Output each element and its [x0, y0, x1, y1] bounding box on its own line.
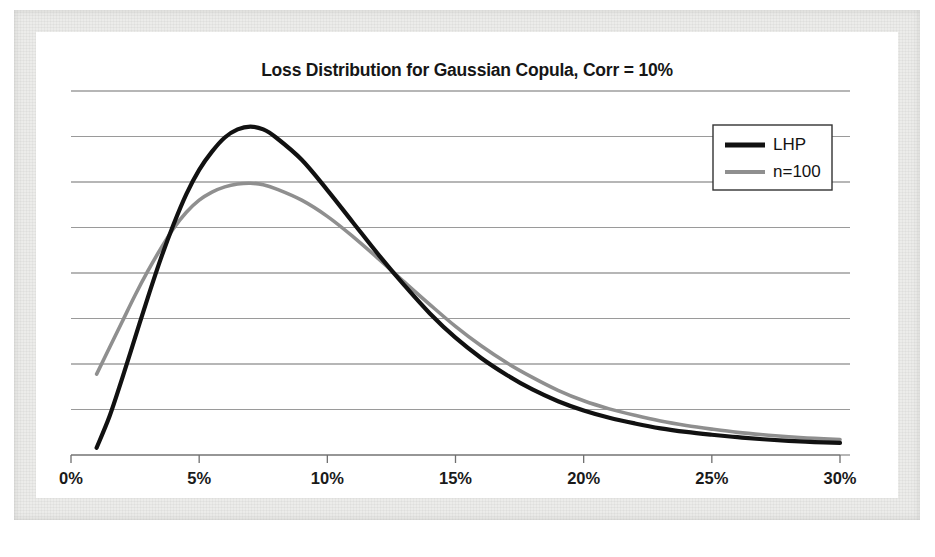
x-tick-label: 10% [311, 469, 344, 488]
x-tick-label: 0% [59, 469, 83, 488]
chart-card: Loss Distribution for Gaussian Copula, C… [36, 32, 898, 498]
x-tick-label: 15% [439, 469, 472, 488]
x-tick-label: 25% [695, 469, 728, 488]
x-tick-label: 5% [187, 469, 211, 488]
x-axis [71, 455, 840, 463]
x-tick-label: 30% [823, 469, 856, 488]
plot-area [36, 32, 898, 498]
series-line [97, 183, 840, 439]
legend-item-label: n=100 [773, 162, 821, 182]
legend-item-label: LHP [773, 135, 806, 155]
x-tick-label: 20% [567, 469, 600, 488]
figure-caption [70, 536, 870, 556]
chart-page: Loss Distribution for Gaussian Copula, C… [0, 0, 935, 557]
